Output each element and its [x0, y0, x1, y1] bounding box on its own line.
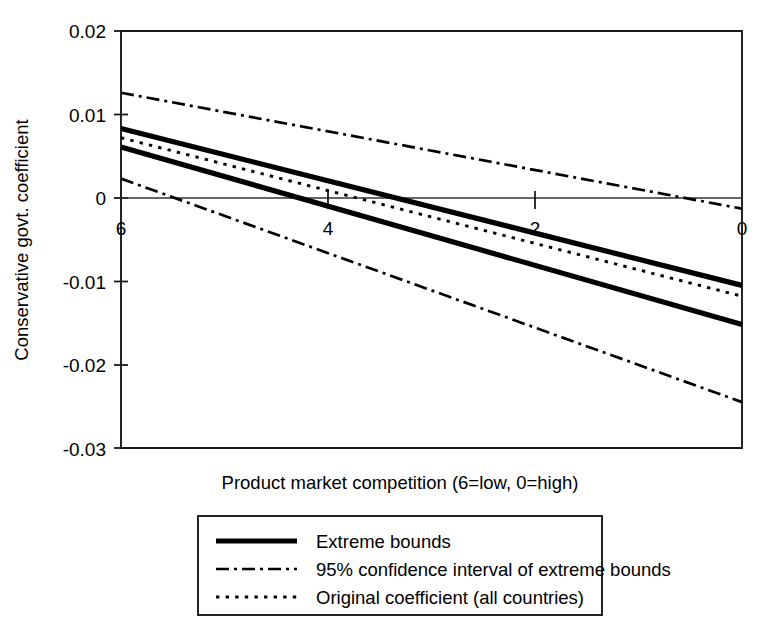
y-tick-label-5: -0.03 — [63, 439, 106, 460]
y-tick-label-4: -0.02 — [63, 355, 106, 376]
legend-label-extreme-bounds: Extreme bounds — [316, 531, 451, 552]
legend-label-confidence-interval: 95% confidence interval of extreme bound… — [316, 559, 671, 580]
legend-label-original-coefficient: Original coefficient (all countries) — [316, 587, 584, 608]
y-tick-label-0: 0.02 — [69, 21, 106, 42]
x-tick-label-4: 4 — [323, 218, 334, 239]
x-tick-label-6: 6 — [116, 218, 127, 239]
y-axis-title: Conservative govt. coefficient — [11, 119, 32, 360]
y-tick-label-2: 0 — [95, 188, 106, 209]
y-tick-label-3: -0.01 — [63, 272, 106, 293]
chart-legend: Extreme bounds 95% confidence interval o… — [198, 516, 671, 615]
y-tick-label-1: 0.01 — [69, 105, 106, 126]
x-axis-title: Product market competition (6=low, 0=hig… — [222, 472, 579, 493]
chart-figure: Conservative govt. coefficient 0.02 0.01… — [0, 0, 775, 638]
x-tick-label-0: 0 — [737, 218, 748, 239]
chart-canvas: Conservative govt. coefficient 0.02 0.01… — [0, 0, 775, 638]
